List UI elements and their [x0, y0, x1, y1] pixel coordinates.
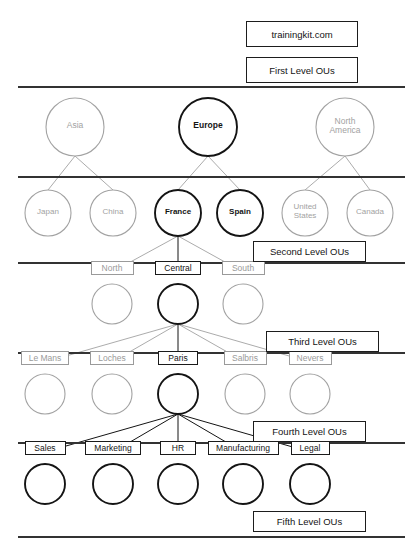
ou-circle-marketing[interactable]: [93, 464, 133, 504]
ou-circle-salbris[interactable]: [225, 374, 265, 414]
connector-north-america-to-united-states: [305, 156, 345, 190]
ou-circle-japan[interactable]: [25, 190, 71, 236]
ou-label-box-le-mans[interactable]: Le Mans: [21, 351, 69, 365]
ou-circle-europe[interactable]: [179, 98, 237, 156]
connector-north-america-to-canada: [345, 156, 370, 190]
connector-europe-to-spain: [208, 156, 240, 190]
ou-circle-paris[interactable]: [158, 374, 198, 414]
ou-label-box-hr[interactable]: HR: [160, 441, 196, 455]
ou-label-box-north[interactable]: North: [91, 261, 134, 275]
ou-circle-nevers[interactable]: [290, 374, 330, 414]
legend-box-level4[interactable]: Fourth Level OUs: [253, 421, 366, 442]
ou-circle-manufacturing[interactable]: [223, 464, 263, 504]
ou-circle-north[interactable]: [92, 284, 132, 324]
ou-circle-sales[interactable]: [25, 464, 65, 504]
ou-circle-china[interactable]: [90, 190, 136, 236]
ou-circle-france[interactable]: [155, 190, 201, 236]
connector-asia-to-china: [75, 156, 113, 190]
ou-circle-le-mans[interactable]: [25, 374, 65, 414]
ou-label-box-nevers[interactable]: Nevers: [289, 351, 332, 365]
legend-box-level5[interactable]: Fifth Level OUs: [253, 511, 366, 532]
connector-europe-to-france: [178, 156, 208, 190]
ou-label-box-manufacturing[interactable]: Manufacturing: [208, 441, 279, 455]
legend-box-level2[interactable]: Second Level OUs: [253, 241, 366, 262]
ou-label-box-loches[interactable]: Loches: [90, 351, 134, 365]
ou-circle-legal[interactable]: [290, 464, 330, 504]
diagram-canvas: AsiaEuropeNorth AmericaJapanChinaFranceS…: [0, 0, 420, 553]
ou-label-box-paris[interactable]: Paris: [158, 351, 198, 365]
ou-label-box-central[interactable]: Central: [155, 261, 201, 275]
ou-circle-united-states[interactable]: [282, 190, 328, 236]
ou-circle-asia[interactable]: [46, 98, 104, 156]
connector-asia-to-japan: [48, 156, 75, 190]
ou-circle-spain[interactable]: [217, 190, 263, 236]
ou-circle-south[interactable]: [223, 284, 263, 324]
ou-circle-canada[interactable]: [347, 190, 393, 236]
ou-label-box-marketing[interactable]: Marketing: [85, 441, 141, 455]
legend-box-level3[interactable]: Third Level OUs: [266, 331, 379, 352]
ou-circle-central[interactable]: [158, 284, 198, 324]
ou-circle-loches[interactable]: [92, 374, 132, 414]
legend-box-domain[interactable]: trainingkit.com: [246, 21, 358, 47]
ou-label-box-sales[interactable]: Sales: [25, 441, 66, 455]
ou-label-box-salbris[interactable]: Salbris: [224, 351, 267, 365]
ou-circle-hr[interactable]: [158, 464, 198, 504]
ou-label-box-legal[interactable]: Legal: [291, 441, 330, 455]
ou-label-box-south[interactable]: South: [222, 261, 265, 275]
ou-circle-north-america[interactable]: [316, 98, 374, 156]
legend-box-level1[interactable]: First Level OUs: [246, 57, 358, 83]
